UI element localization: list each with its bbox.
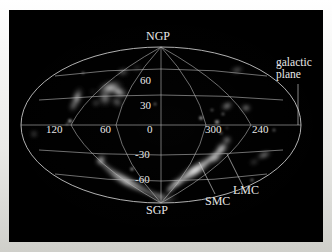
emission-edge-knot-left [31,130,38,138]
all-sky-map-figure: NGP SGP 60 30 0 -30 -60 120 60 300 240 S… [0,0,332,252]
sky-plot-area: NGP SGP 60 30 0 -30 -60 120 60 300 240 S… [9,10,323,242]
sky-background-noise [9,10,323,242]
sky-projection [9,10,323,242]
